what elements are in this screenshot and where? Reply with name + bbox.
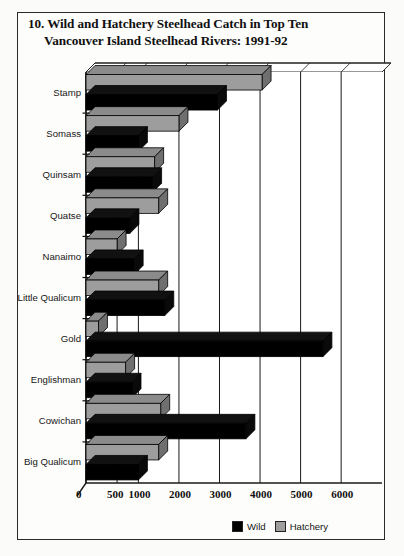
- xtick-label-4000: 4000: [250, 488, 272, 500]
- xtick-label-2000: 2000: [169, 488, 191, 500]
- bar-wild-big-qualicum: [86, 455, 147, 480]
- category-label-gold: Gold: [61, 333, 81, 344]
- category-label-englishman: Englishman: [31, 374, 81, 385]
- category-label-stamp: Stamp: [53, 87, 81, 98]
- chart-plot-area: [0, 0, 404, 556]
- category-label-big-qualicum: Big Qualicum: [24, 456, 81, 467]
- category-label-nanaimo: Nanaimo: [43, 251, 81, 262]
- legend-swatch-wild: [232, 521, 243, 532]
- category-label-cowichan: Cowichan: [39, 415, 81, 426]
- category-label-little-qualicum: Little Qualicum: [18, 292, 81, 303]
- xtick-label-5000: 5000: [291, 488, 313, 500]
- legend-label-hatchery: Hatchery: [290, 521, 328, 532]
- xtick-label-6000: 6000: [331, 488, 353, 500]
- legend-label-wild: Wild: [247, 521, 266, 532]
- legend-entry-wild: Wild: [232, 521, 266, 532]
- category-label-quinsam: Quinsam: [43, 169, 81, 180]
- legend-swatch-hatchery: [275, 521, 286, 532]
- xtick-label-0: 0: [76, 488, 82, 500]
- legend-entry-hatchery: Hatchery: [275, 521, 328, 532]
- category-label-somass: Somass: [46, 128, 81, 139]
- xtick-label-500: 500: [107, 488, 124, 500]
- category-label-quatse: Quatse: [50, 210, 81, 221]
- xtick-label-3000: 3000: [209, 488, 231, 500]
- chart-legend: WildHatchery: [232, 521, 328, 532]
- chart-svg: [0, 0, 404, 556]
- xtick-label-1000: 1000: [128, 488, 150, 500]
